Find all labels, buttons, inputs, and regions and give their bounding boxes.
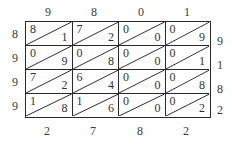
cell-tens-digit: 6 (77, 71, 83, 84)
cell-tens-digit: 7 (30, 71, 36, 84)
left-digit: 9 (8, 75, 22, 89)
lattice-cell: 0 0 (119, 46, 166, 70)
cell-ones-digit: 2 (199, 102, 205, 115)
lattice-cell: 0 0 (119, 70, 166, 94)
right-digit: 1 (213, 58, 227, 72)
cell-tens-digit: 0 (123, 23, 129, 36)
left-digit: 8 (8, 27, 22, 41)
lattice-cell: 1 6 (73, 94, 120, 116)
lattice-cell: 0 2 (166, 94, 210, 116)
bottom-digit: 2 (179, 124, 193, 138)
cell-tens-digit: 0 (170, 71, 176, 84)
cell-tens-digit: 7 (77, 23, 83, 36)
cell-ones-digit: 1 (62, 31, 68, 44)
lattice-cell: 6 4 (73, 70, 120, 94)
left-digit: 9 (8, 99, 22, 113)
cell-tens-digit: 0 (30, 47, 36, 60)
bottom-digit: 7 (86, 124, 100, 138)
top-digit: 1 (180, 5, 194, 19)
lattice-cell: 0 1 (166, 46, 210, 70)
lattice-cell: 1 8 (26, 94, 73, 116)
right-digit: 9 (213, 34, 227, 48)
cell-tens-digit: 1 (30, 95, 36, 108)
top-digit: 9 (41, 5, 55, 19)
cell-ones-digit: 9 (199, 31, 205, 44)
cell-ones-digit: 0 (155, 55, 161, 68)
lattice-cell: 7 2 (73, 22, 120, 46)
cell-tens-digit: 0 (123, 47, 129, 60)
cell-tens-digit: 1 (77, 95, 83, 108)
cell-ones-digit: 6 (108, 102, 114, 115)
lattice-cell: 0 8 (73, 46, 120, 70)
cell-ones-digit: 2 (62, 79, 68, 92)
cell-ones-digit: 9 (62, 55, 68, 68)
lattice-cell: 8 1 (26, 22, 73, 46)
cell-tens-digit: 8 (30, 23, 36, 36)
cell-ones-digit: 8 (199, 79, 205, 92)
cell-ones-digit: 1 (199, 55, 205, 68)
lattice-cell: 7 2 (26, 70, 73, 94)
left-digit: 9 (8, 51, 22, 65)
top-digit: 0 (134, 5, 148, 19)
cell-ones-digit: 0 (155, 79, 161, 92)
cell-ones-digit: 2 (108, 31, 114, 44)
cell-tens-digit: 0 (170, 23, 176, 36)
lattice-grid: 8 1 7 2 0 0 0 9 0 9 0 8 (25, 21, 211, 118)
lattice-cell: 0 9 (26, 46, 73, 70)
cell-ones-digit: 0 (155, 102, 161, 115)
lattice-cell: 0 8 (166, 70, 210, 94)
cell-ones-digit: 0 (155, 31, 161, 44)
right-digit: 2 (213, 103, 227, 117)
cell-tens-digit: 0 (123, 95, 129, 108)
bottom-digit: 2 (40, 124, 54, 138)
cell-ones-digit: 8 (62, 102, 68, 115)
top-digit: 8 (87, 5, 101, 19)
cell-tens-digit: 0 (77, 47, 83, 60)
right-digit: 8 (213, 82, 227, 96)
bottom-digit: 8 (133, 124, 147, 138)
lattice-cell: 0 0 (119, 22, 166, 46)
cell-ones-digit: 8 (108, 55, 114, 68)
cell-tens-digit: 0 (170, 47, 176, 60)
cell-tens-digit: 0 (170, 95, 176, 108)
cell-ones-digit: 4 (108, 79, 114, 92)
lattice-cell: 0 9 (166, 22, 210, 46)
lattice-cell: 0 0 (119, 94, 166, 116)
cell-tens-digit: 0 (123, 71, 129, 84)
